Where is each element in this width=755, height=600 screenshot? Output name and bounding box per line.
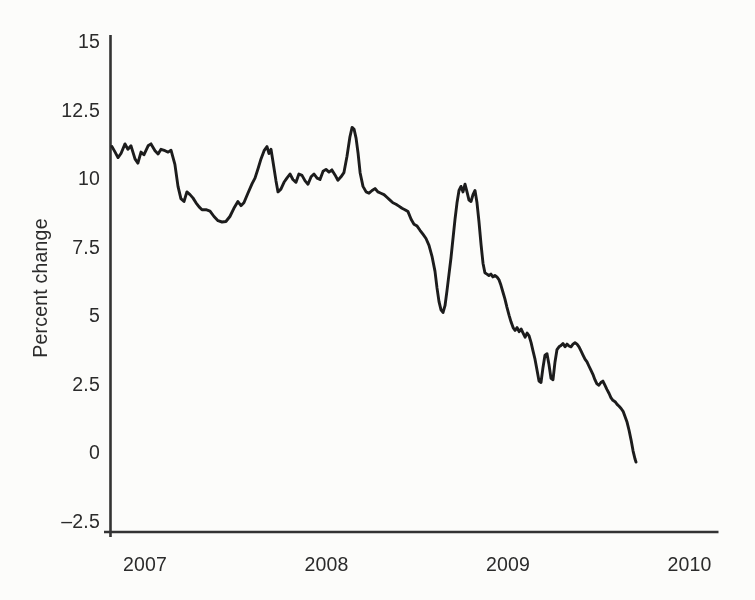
chart-figure: Percent change –2.502.557.51012.51520072… bbox=[0, 0, 755, 600]
line-chart-canvas bbox=[0, 0, 755, 600]
y-axis-title: Percent change bbox=[28, 193, 52, 383]
y-tick-label: 10 bbox=[10, 166, 100, 190]
x-tick-label: 2009 bbox=[463, 552, 553, 576]
y-tick-label: 7.5 bbox=[10, 235, 100, 259]
x-tick-label: 2008 bbox=[282, 552, 372, 576]
data-line bbox=[112, 127, 636, 462]
x-tick-label: 2007 bbox=[100, 552, 190, 576]
y-tick-label: –2.5 bbox=[10, 509, 100, 533]
y-tick-label: 15 bbox=[10, 29, 100, 53]
y-tick-label: 2.5 bbox=[10, 372, 100, 396]
y-tick-label: 5 bbox=[10, 303, 100, 327]
x-tick-label: 2010 bbox=[645, 552, 735, 576]
y-tick-label: 0 bbox=[10, 440, 100, 464]
y-tick-label: 12.5 bbox=[10, 98, 100, 122]
